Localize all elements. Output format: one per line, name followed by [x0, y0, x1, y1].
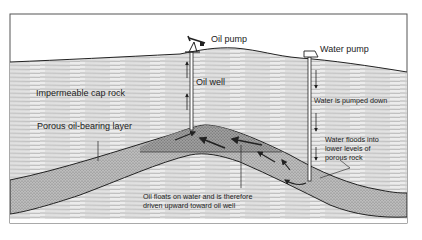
label-oil-floats-2: driven upward toward oil well: [143, 202, 235, 209]
label-water-floods-1: Water floods into: [325, 136, 379, 143]
water-well-pipe: [308, 57, 311, 181]
label-water-pump: Water pump: [320, 45, 369, 54]
oil-well-pipe: [190, 52, 193, 130]
label-water-floods-3: porous rock: [325, 154, 363, 161]
label-porous-layer: Porous oil-bearing layer: [37, 122, 132, 131]
label-oil-well: Oil well: [196, 78, 225, 87]
label-oil-pump: Oil pump: [211, 35, 247, 44]
water-pump-icon: [304, 51, 318, 57]
label-water-floods-2: lower levels of: [325, 145, 371, 152]
label-water-pumped-down: Water is pumped down: [314, 97, 387, 104]
label-cap-rock: Impermeable cap rock: [36, 89, 125, 98]
label-oil-floats-1: Oil floats on water and is therefore: [143, 193, 252, 200]
